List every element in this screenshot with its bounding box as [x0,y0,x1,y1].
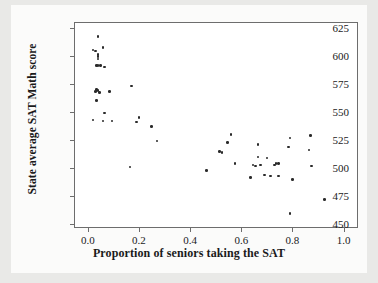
y-tick-mark [70,84,75,85]
data-point [287,146,290,149]
data-point [92,119,95,122]
data-point [129,166,132,169]
x-tick-mark [190,227,191,232]
x-tick-label: 0.8 [272,234,312,246]
data-point [94,50,97,53]
x-axis-title: Proportion of seniors taking the SAT [11,246,367,261]
data-point [156,140,159,143]
x-tick-label: 1.0 [324,234,364,246]
data-point [111,120,114,123]
data-point [130,85,133,88]
y-tick-mark [70,112,75,113]
data-point [323,198,326,201]
x-tick-mark [241,227,242,232]
data-point [97,35,100,38]
y-tick-label: 575 [309,78,349,90]
y-tick-label: 625 [309,22,349,34]
data-point [257,143,260,146]
y-axis-title: State average SAT Math score [26,14,38,224]
data-point [263,174,266,177]
data-point [97,58,100,61]
data-point [266,157,269,160]
data-point [257,156,260,159]
data-point [98,91,101,94]
data-point [95,99,98,102]
data-point [103,112,106,115]
data-point [273,164,276,167]
data-point [309,134,312,137]
x-tick-mark [344,227,345,232]
data-point [269,175,272,178]
data-point [94,90,97,93]
x-tick-label: 0.0 [68,234,108,246]
y-tick-mark [70,224,75,225]
data-point [99,64,102,67]
data-point [205,169,208,172]
data-point [277,162,280,165]
x-tick-label: 0.2 [119,234,159,246]
plot-area: 450475500525550575600625 0.00.20.40.60.8… [74,22,358,228]
figure-panel: State average SAT Math score 45047550052… [11,5,367,273]
data-point [234,162,237,165]
data-point [138,116,141,119]
data-point [108,90,111,93]
data-point [291,178,294,181]
y-tick-mark [70,28,75,29]
y-tick-mark [70,140,75,141]
y-tick-mark [70,168,75,169]
data-point [277,175,280,178]
data-point [289,212,292,215]
y-tick-mark [70,56,75,57]
y-tick-label: 500 [309,162,349,174]
data-point [259,164,262,167]
x-tick-label: 0.6 [221,234,261,246]
y-tick-mark [70,196,75,197]
y-tick-label: 475 [309,190,349,202]
data-point [150,125,153,128]
data-point [249,176,252,179]
data-point [135,121,138,124]
data-point [289,137,292,140]
y-tick-label: 550 [309,106,349,118]
data-point [308,149,311,152]
x-tick-mark [292,227,293,232]
x-tick-mark [88,227,89,232]
x-tick-label: 0.4 [170,234,210,246]
x-tick-mark [139,227,140,232]
y-tick-label: 600 [309,50,349,62]
data-point [226,141,229,144]
y-tick-label: 525 [309,134,349,146]
data-point [254,165,257,168]
data-point [103,66,106,69]
data-point [221,151,224,154]
data-point [230,133,233,136]
data-point [102,46,105,49]
data-point [102,120,105,123]
